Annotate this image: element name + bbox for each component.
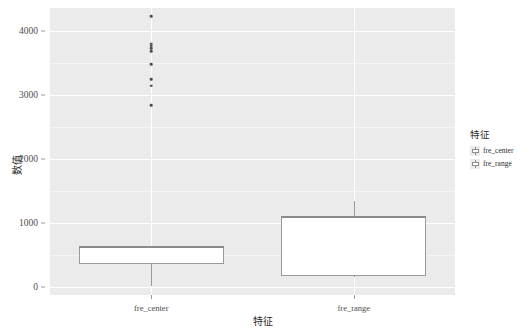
box-fre_range <box>281 217 426 275</box>
legend-label: fre_center <box>483 146 513 155</box>
legend-key-icon <box>470 146 480 156</box>
gridline-minor <box>50 127 455 128</box>
outlier-point <box>150 84 153 87</box>
legend-items: fre_centerfre_range <box>470 145 525 169</box>
legend-item-fre_range[interactable]: fre_range <box>470 158 525 169</box>
gridline-minor <box>50 63 455 64</box>
gridline-major <box>50 31 455 32</box>
x-axis-label: 特征 <box>0 313 525 328</box>
y-tick-mark <box>41 159 45 160</box>
whisker-lower <box>354 276 355 278</box>
y-tick-label: 3000 <box>19 90 38 100</box>
median-line-fre_center <box>79 246 224 247</box>
median-line-fre_range <box>281 216 426 217</box>
y-axis-ticks: 01000200030004000 <box>0 0 50 334</box>
x-tick-mark <box>354 295 355 299</box>
y-tick-label: 2000 <box>19 154 38 164</box>
gridline-major <box>50 287 455 288</box>
x-tick-mark <box>151 295 152 299</box>
y-tick-mark <box>41 31 45 32</box>
y-tick-label: 0 <box>33 282 38 292</box>
gridline-major <box>50 159 455 160</box>
x-tick-label-fre_center: fre_center <box>134 303 168 313</box>
outlier-point <box>150 43 153 46</box>
y-tick-label: 4000 <box>19 26 38 36</box>
outlier-point <box>150 78 153 81</box>
legend-key-icon <box>470 159 480 169</box>
y-tick-mark <box>41 223 45 224</box>
legend-label: fre_range <box>483 159 512 168</box>
gridline-minor <box>50 191 455 192</box>
gridline-major <box>50 95 455 96</box>
legend-title: 特征 <box>470 127 525 141</box>
y-tick-label: 1000 <box>19 218 38 228</box>
outlier-point <box>150 15 153 18</box>
x-tick-label-fre_range: fre_range <box>337 303 370 313</box>
plot-panel <box>50 8 455 295</box>
whisker-lower <box>151 264 152 286</box>
chart-root: 数值 01000200030004000 fre_centerfre_range… <box>0 0 525 334</box>
y-tick-mark <box>41 95 45 96</box>
legend: 特征 fre_centerfre_range <box>470 127 525 171</box>
y-tick-mark <box>41 287 45 288</box>
whisker-upper <box>354 201 355 217</box>
outlier-point <box>150 47 153 50</box>
outlier-point <box>150 104 153 107</box>
outlier-point <box>150 50 153 53</box>
box-fre_center <box>79 246 224 263</box>
outlier-point <box>150 63 153 66</box>
legend-item-fre_center[interactable]: fre_center <box>470 145 525 156</box>
